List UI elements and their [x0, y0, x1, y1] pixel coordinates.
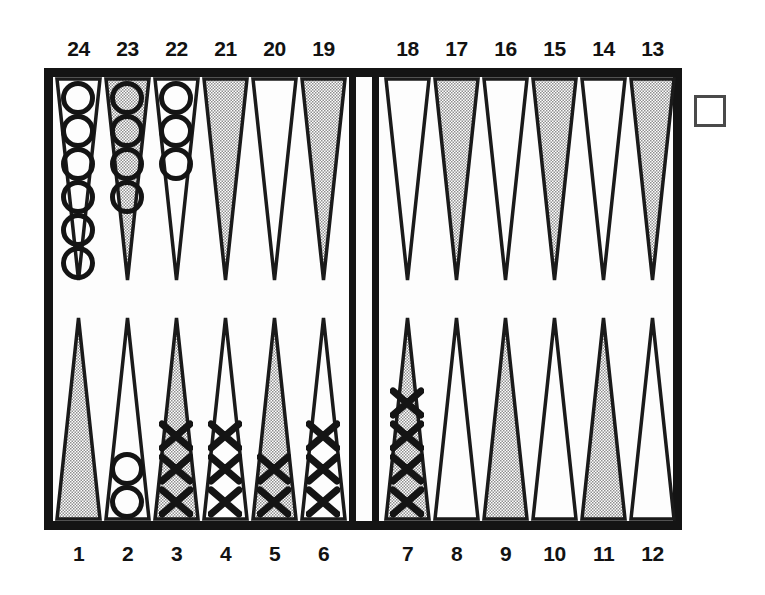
backgammon-diagram: 242322212019181716151413 123456789101112 — [0, 0, 765, 595]
point-3[interactable] — [153, 316, 200, 521]
checker-white-point-22[interactable] — [159, 81, 193, 115]
point-number-1: 1 — [59, 541, 99, 567]
checker-dark-point-6[interactable] — [306, 485, 340, 519]
point-number-23: 23 — [108, 36, 148, 62]
checker-white-point-24[interactable] — [61, 147, 95, 181]
checker-white-point-24[interactable] — [61, 114, 95, 148]
point-number-5: 5 — [255, 541, 295, 567]
point-number-17: 17 — [437, 36, 477, 62]
doubling-cube[interactable] — [694, 95, 726, 127]
point-18[interactable] — [384, 77, 431, 282]
point-6[interactable] — [300, 316, 347, 521]
checker-white-point-23[interactable] — [110, 114, 144, 148]
checker-white-point-2[interactable] — [110, 452, 144, 486]
checker-white-point-22[interactable] — [159, 147, 193, 181]
checker-dark-point-5[interactable] — [257, 485, 291, 519]
point-number-11: 11 — [584, 541, 624, 567]
checker-white-point-2[interactable] — [110, 485, 144, 519]
checker-white-point-23[interactable] — [110, 180, 144, 214]
checker-dark-point-5[interactable] — [257, 452, 291, 486]
point-19[interactable] — [300, 77, 347, 282]
point-11[interactable] — [580, 316, 627, 521]
point-22[interactable] — [153, 77, 200, 282]
checker-dark-point-4[interactable] — [208, 419, 242, 453]
checker-white-point-23[interactable] — [110, 147, 144, 181]
point-number-4: 4 — [206, 541, 246, 567]
point-number-8: 8 — [437, 541, 477, 567]
checker-dark-point-6[interactable] — [306, 452, 340, 486]
checker-dark-point-6[interactable] — [306, 419, 340, 453]
point-number-13: 13 — [633, 36, 673, 62]
point-number-10: 10 — [535, 541, 575, 567]
point-number-16: 16 — [486, 36, 526, 62]
point-24[interactable] — [55, 77, 102, 282]
point-2[interactable] — [104, 316, 151, 521]
checker-dark-point-7[interactable] — [390, 386, 424, 420]
checker-dark-point-3[interactable] — [159, 452, 193, 486]
point-17[interactable] — [433, 77, 480, 282]
point-8[interactable] — [433, 316, 480, 521]
checker-white-point-24[interactable] — [61, 213, 95, 247]
checker-white-point-24[interactable] — [61, 246, 95, 280]
point-number-24: 24 — [59, 36, 99, 62]
point-15[interactable] — [531, 77, 578, 282]
point-20[interactable] — [251, 77, 298, 282]
point-number-6: 6 — [304, 541, 344, 567]
point-number-2: 2 — [108, 541, 148, 567]
point-number-3: 3 — [157, 541, 197, 567]
point-14[interactable] — [580, 77, 627, 282]
point-number-15: 15 — [535, 36, 575, 62]
point-number-21: 21 — [206, 36, 246, 62]
checker-dark-point-3[interactable] — [159, 419, 193, 453]
point-13[interactable] — [629, 77, 676, 282]
checker-dark-point-7[interactable] — [390, 485, 424, 519]
point-number-22: 22 — [157, 36, 197, 62]
bottom-number-row: 123456789101112 — [0, 541, 765, 567]
point-7[interactable] — [384, 316, 431, 521]
checker-dark-point-7[interactable] — [390, 419, 424, 453]
point-number-19: 19 — [304, 36, 344, 62]
point-21[interactable] — [202, 77, 249, 282]
point-number-20: 20 — [255, 36, 295, 62]
point-1[interactable] — [55, 316, 102, 521]
center-bar — [349, 77, 379, 521]
point-12[interactable] — [629, 316, 676, 521]
point-23[interactable] — [104, 77, 151, 282]
checker-white-point-24[interactable] — [61, 180, 95, 214]
top-number-row: 242322212019181716151413 — [0, 36, 765, 62]
point-4[interactable] — [202, 316, 249, 521]
checker-white-point-24[interactable] — [61, 81, 95, 115]
point-9[interactable] — [482, 316, 529, 521]
board-inner — [53, 77, 673, 521]
point-number-7: 7 — [388, 541, 428, 567]
checker-dark-point-3[interactable] — [159, 485, 193, 519]
point-number-12: 12 — [633, 541, 673, 567]
point-number-18: 18 — [388, 36, 428, 62]
board-frame — [44, 68, 682, 530]
checker-dark-point-4[interactable] — [208, 452, 242, 486]
point-number-9: 9 — [486, 541, 526, 567]
checker-dark-point-4[interactable] — [208, 485, 242, 519]
checker-dark-point-7[interactable] — [390, 452, 424, 486]
checker-white-point-23[interactable] — [110, 81, 144, 115]
point-16[interactable] — [482, 77, 529, 282]
point-10[interactable] — [531, 316, 578, 521]
point-number-14: 14 — [584, 36, 624, 62]
checker-white-point-22[interactable] — [159, 114, 193, 148]
point-5[interactable] — [251, 316, 298, 521]
